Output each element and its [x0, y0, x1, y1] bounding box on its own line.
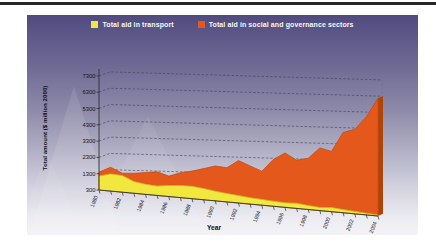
y-axis-title: Total amount ($ million 2000) [41, 86, 48, 171]
x-tick-label: 1990 [205, 205, 215, 218]
area-social-governance-side-face [378, 96, 383, 216]
y-tick-label: 2300 [83, 154, 96, 160]
x-tick-label: 2000 [321, 216, 331, 229]
x-tick-label: 1994 [252, 210, 262, 223]
y-tick-label: 5300 [83, 106, 96, 112]
y-tick-label: 300 [86, 187, 96, 193]
x-tick-label: 1998 [298, 214, 308, 227]
y-tick-label: 7300 [83, 73, 96, 79]
x-tick-label: 2002 [345, 218, 355, 231]
y-tick-label: 6300 [83, 89, 96, 95]
chart-canvas: 3001300230033004300530063007300198019821… [0, 0, 436, 249]
y-tick-label: 4300 [83, 122, 96, 128]
x-tick-label: 2004 [368, 221, 378, 234]
page: Total aid in transport Total aid in soci… [0, 0, 436, 249]
y-tick-label: 1300 [83, 171, 96, 177]
y-tick-label: 3300 [83, 138, 96, 144]
x-tick-label: 1992 [228, 208, 238, 221]
x-axis-title: Year [207, 224, 221, 231]
x-tick-label: 1996 [275, 212, 285, 225]
